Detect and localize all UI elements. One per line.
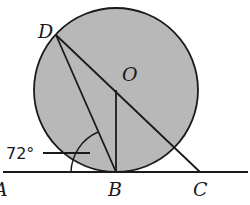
geometry-diagram: D O A B C 72° bbox=[0, 0, 250, 205]
angle-label: 72° bbox=[6, 144, 34, 163]
label-d: D bbox=[37, 20, 53, 42]
label-o: O bbox=[122, 63, 138, 85]
label-b: B bbox=[107, 178, 122, 200]
label-a: A bbox=[0, 178, 8, 200]
label-c: C bbox=[193, 178, 208, 200]
